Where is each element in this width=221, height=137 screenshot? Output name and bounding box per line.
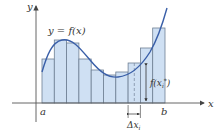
rectangle bbox=[54, 40, 66, 103]
rectangle bbox=[91, 70, 103, 103]
a-label: a bbox=[40, 106, 46, 117]
rectangle bbox=[104, 75, 116, 103]
y-axis-label: y bbox=[26, 1, 33, 12]
height-label: f(xi*) bbox=[149, 77, 171, 89]
rectangle bbox=[67, 43, 79, 103]
rectangle bbox=[79, 59, 91, 103]
curve-label: y = f(x) bbox=[47, 25, 86, 36]
riemann-sum-diagram: y x y = f(x) a b Δxi f(xi*) bbox=[0, 0, 221, 137]
rectangle bbox=[153, 28, 165, 103]
b-label: b bbox=[161, 106, 167, 117]
riemann-rectangles bbox=[42, 28, 165, 103]
delta-x-label: Δxi bbox=[126, 120, 141, 131]
x-axis-label: x bbox=[208, 98, 214, 109]
